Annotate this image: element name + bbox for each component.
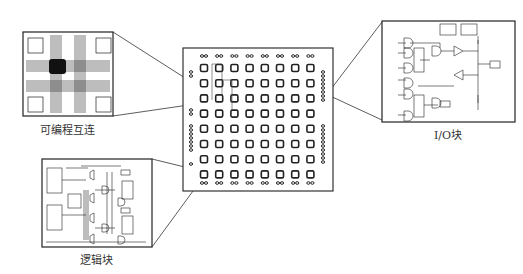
callout-line-io-bottom	[328, 95, 382, 120]
fpga-chip	[183, 48, 333, 191]
label-logic-block: 逻辑块	[80, 251, 113, 267]
callout-line-io-top	[328, 22, 382, 93]
label-interconnect: 可编程互连	[40, 121, 95, 137]
label-io-block: I/O块	[434, 126, 462, 142]
interconnect-switch-active	[49, 59, 66, 74]
logic-block-inset	[42, 159, 152, 247]
interconnect-inset	[23, 32, 113, 116]
io-block-inset	[382, 21, 515, 122]
